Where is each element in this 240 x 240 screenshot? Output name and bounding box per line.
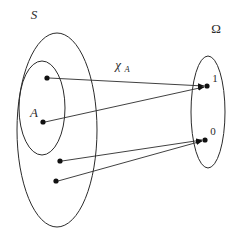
set-s-outline [17, 33, 97, 227]
label-value-one: 1 [212, 72, 218, 84]
characteristic-function-figure: S A Ω 1 0 χ A [0, 0, 240, 240]
label-set-s: S [31, 7, 38, 22]
point-s1 [57, 158, 62, 163]
point-a1 [44, 75, 49, 80]
arrow-a2-to-one [45, 87, 204, 122]
set-omega-outline [191, 56, 225, 168]
label-map-chi: χ [113, 57, 121, 72]
arrow-s1-to-zero [62, 140, 202, 161]
point-one [204, 83, 209, 88]
point-zero [202, 137, 207, 142]
arrow-a1-to-one [49, 78, 204, 86]
point-s2 [53, 178, 58, 183]
diagram-canvas: S A Ω 1 0 χ A [0, 0, 240, 240]
label-set-omega: Ω [211, 21, 221, 36]
set-a-outline [19, 61, 65, 155]
label-map-chi-a: χ A [113, 57, 130, 74]
arrow-s2-to-zero [58, 141, 202, 181]
label-subset-a: A [29, 105, 38, 120]
label-value-zero: 0 [210, 125, 216, 137]
point-a2 [40, 119, 45, 124]
label-map-subscript: A [123, 64, 130, 74]
